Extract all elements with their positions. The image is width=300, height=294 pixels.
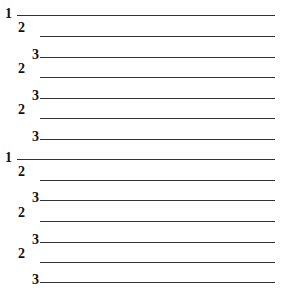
outline-row-level-3: 3 xyxy=(0,268,300,288)
writing-line[interactable] xyxy=(40,221,275,222)
outline-row-level-1: 1 xyxy=(0,145,300,165)
outline-row-level-2: 2 xyxy=(0,63,300,83)
outline-row-level-3: 3 xyxy=(0,84,300,104)
writing-line[interactable] xyxy=(40,242,275,243)
writing-line[interactable] xyxy=(40,180,275,181)
outline-number: 2 xyxy=(18,165,25,179)
writing-line[interactable] xyxy=(40,200,275,201)
outline-number: 2 xyxy=(18,206,25,220)
outline-number: 3 xyxy=(32,191,39,205)
outline-row-level-2: 2 xyxy=(0,207,300,227)
outline-row-level-3: 3 xyxy=(0,125,300,145)
outline-row-level-3: 3 xyxy=(0,43,300,63)
writing-line[interactable] xyxy=(40,77,275,78)
outline-number: 1 xyxy=(5,7,12,21)
outline-number: 3 xyxy=(32,48,39,62)
writing-line[interactable] xyxy=(40,262,275,263)
outline-number: 3 xyxy=(32,233,39,247)
writing-line[interactable] xyxy=(40,57,275,58)
writing-line[interactable] xyxy=(40,139,275,140)
outline-number: 3 xyxy=(32,273,39,287)
outline-row-level-3: 3 xyxy=(0,228,300,248)
outline-number: 3 xyxy=(32,130,39,144)
writing-line[interactable] xyxy=(17,15,275,16)
outline-number: 1 xyxy=(5,151,12,165)
outline-number: 2 xyxy=(18,21,25,35)
outline-row-level-2: 2 xyxy=(0,248,300,268)
writing-line[interactable] xyxy=(40,98,275,99)
writing-line[interactable] xyxy=(40,282,275,283)
outline-row-level-3: 3 xyxy=(0,186,300,206)
writing-line[interactable] xyxy=(17,159,275,160)
outline-number: 2 xyxy=(18,247,25,261)
writing-line[interactable] xyxy=(40,36,275,37)
outline-row-level-2: 2 xyxy=(0,166,300,186)
writing-line[interactable] xyxy=(40,118,275,119)
outline-number: 3 xyxy=(32,89,39,103)
outline-number: 2 xyxy=(18,103,25,117)
outline-number: 2 xyxy=(18,62,25,76)
outline-row-level-2: 2 xyxy=(0,22,300,42)
outline-row-level-2: 2 xyxy=(0,104,300,124)
outline-row-level-1: 1 xyxy=(0,1,300,21)
